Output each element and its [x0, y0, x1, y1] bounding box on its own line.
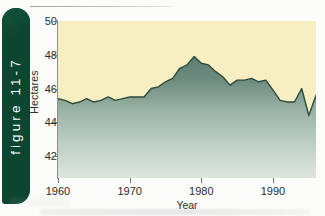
- y-tick-mark-48: [52, 55, 58, 56]
- x-tick-mark-1980: [201, 178, 202, 183]
- plot-area: [58, 21, 316, 178]
- x-tick-label-1990: 1990: [253, 185, 293, 197]
- figure-number-tab: figure 11-7: [2, 8, 30, 204]
- x-tick-mark-1960: [58, 178, 59, 183]
- y-axis-tick-labels: 4244464850: [30, 10, 57, 210]
- x-tick-mark-1970: [130, 178, 131, 183]
- y-tick-mark-46: [52, 89, 58, 90]
- hectares-area-series: [58, 21, 316, 178]
- x-tick-label-1970: 1970: [110, 185, 150, 197]
- x-tick-mark-1990: [273, 178, 274, 183]
- x-tick-label-1960: 1960: [38, 185, 78, 197]
- top-divider-rule: [30, 6, 172, 7]
- x-axis-ticks: [58, 178, 316, 183]
- figure-page: figure 11-7 Hectares 4244464850: [0, 0, 325, 216]
- area-chart: Hectares 4244464850: [30, 10, 322, 210]
- scan-shadow: [40, 209, 310, 215]
- figure-number-label: figure 11-7: [2, 8, 30, 204]
- y-tick-mark-42: [52, 156, 58, 157]
- y-tick-mark-50: [52, 21, 58, 22]
- x-tick-label-1980: 1980: [181, 185, 221, 197]
- y-tick-mark-44: [52, 122, 58, 123]
